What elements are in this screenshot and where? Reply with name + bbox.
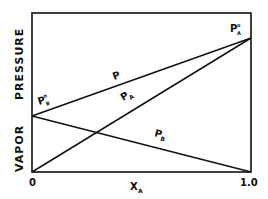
y-axis-label-vapor: VAPOR — [13, 125, 26, 172]
x-tick-1: 1.0 — [240, 177, 258, 188]
x-tick-0: 0 — [29, 177, 36, 188]
y-axis-label-pressure: PRESSURE — [13, 28, 26, 100]
plot-frame — [32, 13, 251, 172]
label-pure-a-subscript: A — [237, 30, 241, 36]
x-axis-label: X — [130, 181, 138, 192]
label-pure-b-subscript: B — [45, 100, 51, 107]
line-partial-pressure-b — [32, 116, 251, 172]
x-axis-label-subscript: A — [138, 187, 143, 194]
vapor-pressure-diagram: PRESSURE VAPOR 0 1.0 X A P P A P B P o B… — [0, 0, 268, 199]
label-pure-b-superscript: o — [43, 92, 49, 99]
label-pure-a-superscript: o — [237, 22, 241, 28]
label-total-pressure: P — [111, 69, 122, 82]
label-partial-b-subscript: B — [160, 135, 167, 143]
